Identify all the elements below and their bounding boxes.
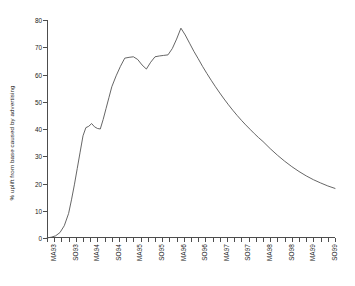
x-tick-mark [249, 238, 250, 242]
y-tick-label: 50 [35, 98, 42, 105]
x-tick-mark [126, 238, 127, 242]
x-tick-label: MA94 [93, 244, 100, 261]
x-tick-label: MA97 [223, 244, 230, 261]
x-tick-label: SO98 [288, 244, 295, 261]
y-tick-label: 0 [38, 235, 42, 242]
y-tick-label: 70 [35, 44, 42, 51]
y-tick-label: 40 [35, 126, 42, 133]
x-tick-mark [105, 238, 106, 242]
x-tick-label: SO99 [331, 244, 338, 261]
x-tick-mark [313, 238, 314, 242]
x-tick-mark [213, 238, 214, 242]
x-tick-label: MA93 [50, 244, 57, 261]
x-tick-mark [241, 238, 242, 242]
x-tick-mark [141, 238, 142, 242]
y-tick-label: 10 [35, 207, 42, 214]
x-tick-mark [256, 238, 257, 242]
x-tick-mark [90, 238, 91, 242]
x-tick-label: MA95 [136, 244, 143, 261]
x-tick-mark [61, 238, 62, 242]
x-tick-mark [285, 238, 286, 242]
x-tick-label: SO95 [158, 244, 165, 261]
plot-area: 01020304050607080 MA93SO93MA94SO94MA95SO… [47, 20, 335, 238]
x-tick-mark [321, 238, 322, 242]
y-tick-label: 20 [35, 180, 42, 187]
x-tick-mark [112, 238, 113, 242]
x-tick-label: SO96 [201, 244, 208, 261]
x-tick-mark [184, 238, 185, 242]
series-line-uplift [47, 20, 335, 238]
x-tick-mark [299, 238, 300, 242]
x-tick-label: MA99 [309, 244, 316, 261]
x-tick-label: SO94 [115, 244, 122, 261]
x-tick-mark [83, 238, 84, 242]
x-tick-mark [198, 238, 199, 242]
x-tick-mark [177, 238, 178, 242]
x-tick-mark [292, 238, 293, 242]
x-tick-mark [306, 238, 307, 242]
x-tick-mark [227, 238, 228, 242]
y-tick-label: 60 [35, 71, 42, 78]
x-tick-mark [47, 238, 48, 242]
x-tick-mark [169, 238, 170, 242]
x-tick-mark [270, 238, 271, 242]
x-tick-label: SO97 [244, 244, 251, 261]
x-tick-mark [69, 238, 70, 242]
y-tick-label: 80 [35, 17, 42, 24]
x-tick-mark [119, 238, 120, 242]
x-tick-mark [234, 238, 235, 242]
x-tick-mark [277, 238, 278, 242]
x-tick-mark [148, 238, 149, 242]
x-tick-mark [328, 238, 329, 242]
x-tick-mark [335, 238, 336, 242]
x-tick-mark [162, 238, 163, 242]
x-tick-mark [263, 238, 264, 242]
x-tick-label: MA96 [180, 244, 187, 261]
x-tick-mark [155, 238, 156, 242]
x-tick-mark [191, 238, 192, 242]
x-tick-label: SO93 [72, 244, 79, 261]
x-tick-mark [54, 238, 55, 242]
x-tick-mark [133, 238, 134, 242]
y-axis-title: % uplift from base caused by advertising [0, 0, 22, 286]
x-tick-mark [205, 238, 206, 242]
x-tick-mark [76, 238, 77, 242]
x-tick-label: MA98 [266, 244, 273, 261]
chart-container: % uplift from base caused by advertising… [0, 0, 355, 286]
y-tick-label: 30 [35, 153, 42, 160]
x-tick-mark [220, 238, 221, 242]
x-tick-mark [97, 238, 98, 242]
